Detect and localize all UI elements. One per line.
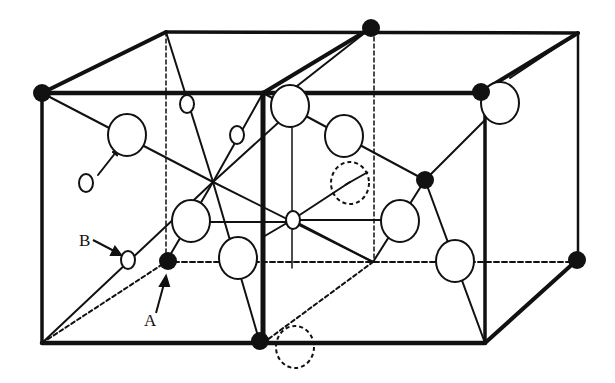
atom-filled (251, 332, 269, 350)
dashed-atoms (276, 162, 369, 368)
atom-filled (362, 19, 380, 37)
atom-filled (472, 83, 490, 101)
bond-line (292, 182, 350, 220)
atom-filled-A (159, 252, 177, 270)
depth-edge-bottom-right (485, 260, 577, 343)
bond-line (425, 120, 485, 180)
bond-line (510, 33, 578, 78)
atom-dashed (276, 326, 314, 368)
atom-filled (33, 84, 51, 102)
atom-large-open (436, 240, 474, 282)
atom-small-open (286, 211, 300, 229)
arrowhead-icon (160, 276, 169, 286)
crystal-diagram: B A (0, 0, 615, 383)
atom-small-open (79, 174, 93, 192)
atom-large-open (381, 200, 419, 242)
atom-large-open (271, 85, 309, 127)
atom-large-open (219, 237, 257, 279)
depth-edge-top-mid (263, 28, 371, 93)
atom-small-open (180, 95, 194, 113)
atom-large-open (325, 115, 363, 157)
bond-line (345, 172, 368, 185)
depth-edge-bottom-left-hidden (42, 262, 166, 343)
depth-edge-top-left (42, 32, 166, 93)
atom-large-open (108, 114, 146, 156)
arrowhead-icon (111, 247, 121, 255)
label-A: A (144, 311, 157, 330)
atom-large-open (172, 200, 210, 242)
atom-small-open-B (121, 251, 135, 269)
atom-small-open (230, 126, 244, 144)
depth-edge-bottom-mid-hidden (263, 262, 373, 343)
bond-line (292, 28, 371, 90)
bond-line (292, 220, 373, 262)
filled-atoms (33, 19, 586, 350)
large-open-atoms (108, 82, 519, 282)
atom-filled (416, 171, 434, 189)
atom-filled (568, 251, 586, 269)
label-B: B (79, 231, 90, 250)
